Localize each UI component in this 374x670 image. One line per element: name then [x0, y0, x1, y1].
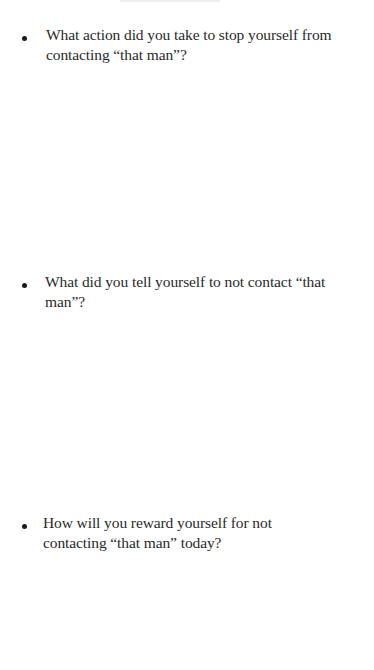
question-text: How will you reward yourself for not con…	[43, 513, 333, 553]
top-cropped-heading-fragment	[120, 0, 220, 2]
question-text: What did you tell yourself to not contac…	[45, 272, 365, 312]
bullet-icon	[22, 36, 27, 41]
bullet-icon	[22, 283, 27, 288]
question-text: What action did you take to stop yoursel…	[46, 25, 366, 65]
bullet-icon	[22, 524, 27, 529]
